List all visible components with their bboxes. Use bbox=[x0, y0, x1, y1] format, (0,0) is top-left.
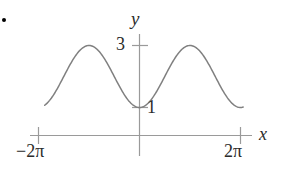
y-axis-label: y bbox=[131, 9, 139, 28]
x-tick-label-two-pi: 2π bbox=[224, 142, 242, 160]
x-tick-label-neg-two-pi: −2π bbox=[16, 142, 44, 160]
cosine-curve bbox=[45, 46, 244, 108]
y-tick-label-1: 1 bbox=[147, 98, 156, 116]
graph-figure: y x 3 1 −2π 2π bbox=[0, 0, 285, 171]
x-axis-label: x bbox=[259, 125, 267, 143]
y-tick-label-3: 3 bbox=[116, 35, 125, 53]
